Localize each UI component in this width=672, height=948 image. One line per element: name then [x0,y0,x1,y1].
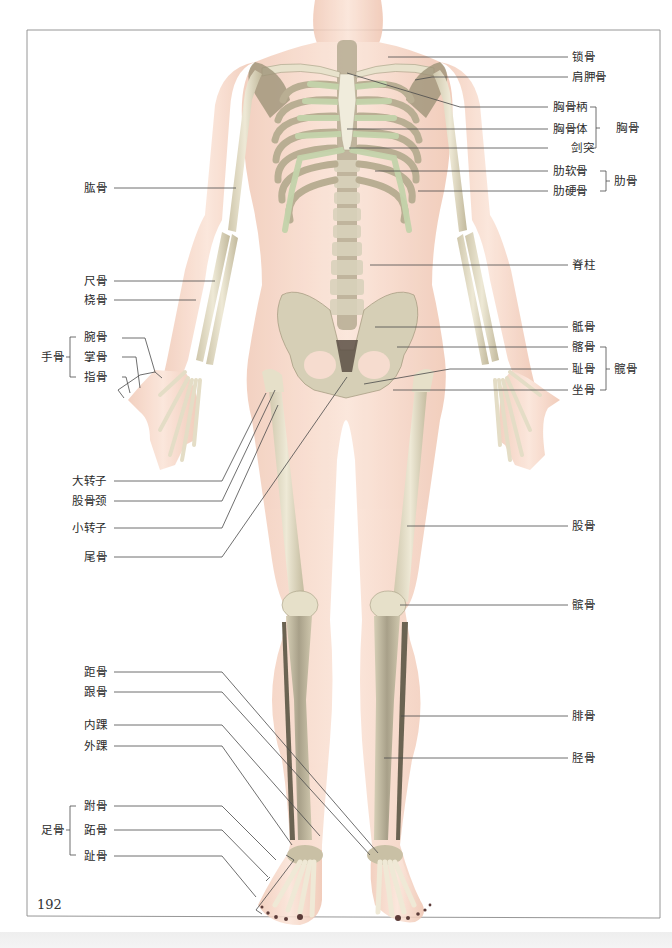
page-number: 192 [37,897,62,912]
label-sacrum: 骶骨 [572,320,595,334]
label-lesser-trochanter: 小转子 [72,521,107,535]
label-phalanges-foot: 趾骨 [84,849,107,863]
group-label-ribs: 肋骨 [614,174,637,188]
label-pubis: 耻骨 [572,362,595,376]
label-patella: 髌骨 [572,598,595,612]
label-coccyx: 尾骨 [84,550,107,564]
label-calcaneus: 跟骨 [84,685,107,699]
label-xiphoid: 剑突 [571,141,594,155]
label-tibia: 胫骨 [572,751,595,765]
label-ulna: 尺骨 [84,274,107,288]
label-femur: 股骨 [572,519,595,533]
label-tarsals: 跗骨 [84,799,107,813]
label-fibula: 腓骨 [572,709,595,723]
label-costal-cartilage: 肋软骨 [553,164,588,178]
label-manubrium: 胸骨柄 [553,100,588,114]
label-metacarpals: 掌骨 [84,350,107,364]
label-scapula: 肩胛骨 [572,70,607,84]
label-sternum-body: 胸骨体 [553,122,588,136]
label-humerus: 肱骨 [84,181,107,195]
label-metatarsals: 跖骨 [84,823,107,837]
group-label-sternum: 胸骨 [616,121,639,135]
label-phalanges-hand: 指骨 [84,370,107,384]
label-radius: 桡骨 [84,293,107,307]
label-ilium: 髂骨 [572,340,595,354]
label-spine: 脊柱 [572,258,595,272]
label-greater-trochanter: 大转子 [72,474,107,488]
label-medial-malleolus: 内踝 [84,718,107,732]
label-rib-bone: 肋硬骨 [553,184,588,198]
label-ischium: 坐骨 [572,383,595,397]
group-label-foot-bones: 足骨 [41,823,64,837]
group-label-hand-bones: 手骨 [41,350,64,364]
group-label-hip-bone: 髋骨 [614,362,637,376]
label-lateral-malleolus: 外踝 [84,739,107,753]
label-clavicle: 锁骨 [572,50,595,64]
label-carpals: 腕骨 [84,330,107,344]
label-femoral-neck: 股骨颈 [72,494,107,508]
label-talus: 距骨 [84,665,107,679]
